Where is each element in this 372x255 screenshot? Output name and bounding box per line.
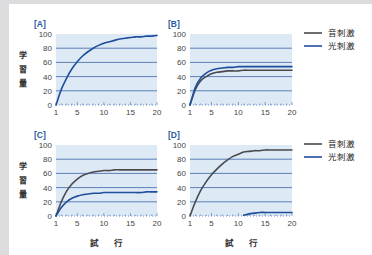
x-tick-label: 1 bbox=[188, 219, 193, 228]
y-tick-label: 100 bbox=[173, 30, 187, 39]
y-tick-label: 60 bbox=[43, 58, 52, 67]
x-tick-label: 20 bbox=[153, 219, 162, 228]
chart-panel-c: 02040608010015101520[C]学習量試行 bbox=[19, 130, 162, 248]
legend-label: 光刺激 bbox=[328, 152, 355, 162]
chart-panel-d: 02040608010015101520[D]試行音刺激光刺激 bbox=[168, 130, 355, 248]
chart-panel-b: 02040608010015101520[B]音刺激光刺激 bbox=[168, 19, 355, 117]
x-tick-label: 5 bbox=[75, 219, 80, 228]
legend-label: 音刺激 bbox=[328, 28, 355, 38]
y-tick-label: 80 bbox=[177, 44, 186, 53]
y-tick-label: 20 bbox=[177, 87, 186, 96]
y-tick-label: 40 bbox=[177, 184, 186, 193]
plot-area bbox=[190, 145, 292, 216]
legend: 音刺激光刺激 bbox=[304, 139, 355, 162]
y-axis-label: 習 bbox=[19, 176, 27, 185]
learning-curves-figure: 02040608010015101520[A]学習量02040608010015… bbox=[0, 0, 372, 255]
x-tick-label: 15 bbox=[261, 219, 270, 228]
y-axis-label: 習 bbox=[19, 65, 27, 74]
y-tick-label: 20 bbox=[177, 198, 186, 207]
x-tick-label: 1 bbox=[188, 108, 193, 117]
plot-area bbox=[56, 145, 157, 216]
chart-panel-a: 02040608010015101520[A]学習量 bbox=[19, 19, 162, 117]
x-tick-label: 15 bbox=[261, 108, 270, 117]
x-axis-label: 試 bbox=[225, 238, 234, 248]
y-tick-label: 40 bbox=[177, 73, 186, 82]
x-axis-label: 試 bbox=[90, 238, 99, 248]
y-tick-label: 0 bbox=[182, 101, 187, 110]
y-tick-label: 60 bbox=[177, 169, 186, 178]
legend: 音刺激光刺激 bbox=[304, 28, 355, 51]
y-tick-label: 80 bbox=[43, 155, 52, 164]
y-tick-label: 20 bbox=[43, 87, 52, 96]
x-tick-label: 1 bbox=[54, 219, 59, 228]
x-tick-label: 10 bbox=[234, 108, 243, 117]
x-tick-label: 20 bbox=[288, 108, 297, 117]
x-tick-label: 20 bbox=[153, 108, 162, 117]
panel-label: [A] bbox=[34, 19, 46, 29]
y-tick-label: 40 bbox=[43, 184, 52, 193]
y-tick-label: 20 bbox=[43, 198, 52, 207]
x-tick-label: 10 bbox=[99, 219, 108, 228]
y-tick-label: 40 bbox=[43, 73, 52, 82]
y-tick-label: 0 bbox=[48, 212, 53, 221]
y-tick-label: 80 bbox=[177, 155, 186, 164]
y-axis-label: 学 bbox=[19, 161, 27, 171]
panel-label: [B] bbox=[168, 19, 180, 29]
x-axis-label: 行 bbox=[113, 238, 123, 248]
y-tick-label: 0 bbox=[182, 212, 187, 221]
y-tick-label: 80 bbox=[43, 44, 52, 53]
x-tick-label: 5 bbox=[209, 108, 214, 117]
x-tick-label: 5 bbox=[75, 108, 80, 117]
x-tick-label: 20 bbox=[288, 219, 297, 228]
y-tick-label: 60 bbox=[177, 58, 186, 67]
legend-label: 光刺激 bbox=[328, 41, 355, 51]
y-axis-label: 量 bbox=[19, 189, 27, 199]
x-axis-label: 行 bbox=[248, 238, 258, 248]
x-tick-label: 15 bbox=[126, 219, 135, 228]
x-tick-label: 10 bbox=[99, 108, 108, 117]
legend-label: 音刺激 bbox=[328, 139, 355, 149]
y-axis-label: 量 bbox=[19, 78, 27, 88]
x-tick-label: 1 bbox=[54, 108, 59, 117]
panel-label: [D] bbox=[168, 130, 180, 140]
y-axis-label: 学 bbox=[19, 50, 27, 60]
x-tick-label: 5 bbox=[209, 219, 214, 228]
y-tick-label: 100 bbox=[39, 141, 53, 150]
y-tick-label: 100 bbox=[173, 141, 187, 150]
y-tick-label: 100 bbox=[39, 30, 53, 39]
x-tick-label: 10 bbox=[234, 219, 243, 228]
y-tick-label: 60 bbox=[43, 169, 52, 178]
x-tick-label: 15 bbox=[126, 108, 135, 117]
y-tick-label: 0 bbox=[48, 101, 53, 110]
panel-label: [C] bbox=[34, 130, 46, 140]
